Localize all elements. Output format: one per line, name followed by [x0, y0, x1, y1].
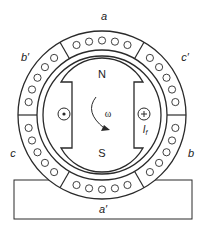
synchronous-machine-diagram: a b′ c′ c b a′ N S ω If	[0, 0, 205, 231]
field-conductor-cross-icon	[138, 108, 150, 120]
label-phase-c-prime: c′	[181, 51, 190, 63]
label-phase-b: b	[188, 147, 194, 159]
label-phase-c: c	[10, 147, 16, 159]
label-phase-a: a	[101, 10, 107, 22]
label-north-pole: N	[98, 68, 106, 80]
label-omega: ω	[105, 108, 112, 119]
label-south-pole: S	[98, 147, 105, 159]
label-phase-a-prime: a′	[99, 203, 108, 215]
field-conductor-dot-icon	[58, 108, 70, 120]
label-phase-b-prime: b′	[21, 51, 30, 63]
